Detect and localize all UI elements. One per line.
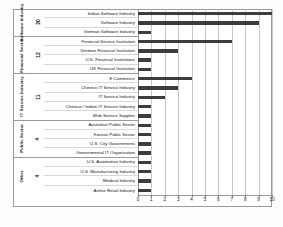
group-count-1: 20 — [31, 9, 44, 37]
bar-row — [138, 93, 272, 102]
group-label-text: Public Sector — [20, 124, 25, 153]
category-label: IT Service Industry — [44, 93, 138, 102]
bar-row — [138, 176, 272, 185]
bar-row — [138, 28, 272, 37]
gridline-10 — [272, 9, 273, 195]
bar-row — [138, 121, 272, 130]
group-label-1: Software Industry — [13, 9, 31, 37]
group-count-column: 20121144 — [31, 9, 44, 195]
category-label: U.S. Manufacturing Industry — [44, 167, 138, 176]
group-label-text: Software Industry — [20, 3, 25, 41]
category-label: Financial Service Institution — [44, 37, 138, 46]
bar — [138, 161, 151, 164]
bar-row — [138, 158, 272, 167]
group-count-text: 20 — [35, 20, 41, 26]
group-count-4: 4 — [31, 121, 44, 158]
bar — [138, 114, 151, 117]
axis-tick-label: 6 — [217, 197, 220, 202]
axis-tick-label: 0 — [137, 197, 140, 202]
group-count-text: 4 — [35, 175, 41, 178]
bar — [138, 179, 151, 182]
axis-tick-label: 9 — [257, 197, 260, 202]
group-label-5: Other — [13, 158, 31, 195]
bar — [138, 40, 232, 43]
bar — [138, 96, 165, 99]
bar-row — [138, 111, 272, 120]
bar-row — [138, 46, 272, 55]
group-count-2: 12 — [31, 37, 44, 74]
group-count-3: 11 — [31, 74, 44, 121]
bar-row — [138, 18, 272, 27]
category-label: German Software Industry — [44, 28, 138, 37]
bar-row — [138, 102, 272, 111]
group-label-text: Other — [20, 170, 25, 182]
bar-row — [138, 9, 272, 18]
bar — [138, 170, 151, 173]
category-label: UK Financial Institution — [44, 65, 138, 74]
axis-tick-label: 2 — [164, 197, 167, 202]
group-label-3: IT Service Industry — [13, 74, 31, 121]
bar — [138, 77, 192, 80]
bar-row — [138, 37, 272, 46]
bar-row — [138, 149, 272, 158]
category-label: Medical Industry — [44, 176, 138, 185]
group-label-4: Public Sector — [13, 121, 31, 158]
bar-row — [138, 56, 272, 65]
bar — [138, 21, 259, 24]
group-count-text: 12 — [35, 52, 41, 58]
category-label: Indian Software Industry — [44, 9, 138, 18]
group-count-text: 4 — [35, 137, 41, 140]
bar-row — [138, 74, 272, 83]
plot-area — [138, 9, 272, 195]
group-count-text: 11 — [34, 94, 40, 99]
bar-row — [138, 65, 272, 74]
category-label: Chinese IT Service Industry — [44, 83, 138, 92]
axis-tick-label: 1 — [150, 197, 153, 202]
category-label: Software Industry — [44, 18, 138, 27]
bar-row — [138, 186, 272, 195]
category-label: U.S. City Governments — [44, 139, 138, 148]
bar — [138, 142, 151, 145]
bar-row — [138, 130, 272, 139]
group-label-text: Financial Sector — [20, 38, 25, 73]
category-label: Korean Public Sector — [44, 130, 138, 139]
category-label: Australian Public Sector — [44, 121, 138, 130]
axis-tick-label: 3 — [177, 197, 180, 202]
bar-row — [138, 139, 272, 148]
group-label-2: Financial Sector — [13, 37, 31, 74]
category-label: German Financial Institution — [44, 46, 138, 55]
x-axis: 012345678910 — [138, 195, 272, 207]
category-label: Airline Retail Industry — [44, 186, 138, 195]
bar — [138, 105, 151, 108]
category-label-column: Indian Software IndustrySoftware Industr… — [44, 9, 138, 195]
category-label: Governmental IT Organization — [44, 149, 138, 158]
category-label: Chinese / Indian IT Service Industry — [44, 102, 138, 111]
bar-row — [138, 83, 272, 92]
axis-tick-label: 5 — [204, 197, 207, 202]
bar — [138, 133, 151, 136]
bar — [138, 124, 151, 127]
bar — [138, 68, 151, 71]
bar — [138, 151, 151, 154]
axis-tick-label: 4 — [190, 197, 193, 202]
category-label: U.S. Financial Institutions — [44, 56, 138, 65]
axis-tick-label: 7 — [231, 197, 234, 202]
bar — [138, 49, 178, 52]
group-label-column: Software IndustryFinancial SectorIT Serv… — [13, 9, 31, 195]
group-label-text: IT Service Industry — [20, 77, 25, 117]
category-label: U.S. Automotive Industry — [44, 158, 138, 167]
category-label: Web Service Supplier — [44, 111, 138, 120]
bar — [138, 58, 151, 61]
bar-chart: Software IndustryFinancial SectorIT Serv… — [0, 0, 283, 227]
bar — [138, 31, 151, 34]
bar — [138, 86, 178, 89]
bar — [138, 189, 151, 192]
axis-tick-label: 8 — [244, 197, 247, 202]
axis-tick-label: 10 — [269, 197, 274, 202]
group-count-5: 4 — [31, 158, 44, 195]
bar-row — [138, 167, 272, 176]
category-label: E Commerce — [44, 74, 138, 83]
bar — [138, 12, 272, 15]
